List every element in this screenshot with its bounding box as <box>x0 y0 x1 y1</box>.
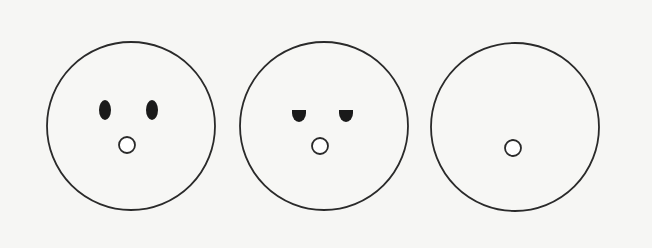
face-1 <box>47 42 215 210</box>
face-2 <box>240 42 408 210</box>
face-3-head-outline <box>431 43 599 211</box>
face-2-mouth-icon <box>312 138 328 154</box>
face-1-head-outline <box>47 42 215 210</box>
faces-figure <box>0 0 652 248</box>
face-3-mouth-icon <box>505 140 521 156</box>
figure-canvas: Face 1 Face 2 Face 3 <box>0 0 652 248</box>
face-1-right-eye-icon <box>146 100 158 120</box>
face-2-head-outline <box>240 42 408 210</box>
face-1-mouth-icon <box>119 137 135 153</box>
face-1-left-eye-icon <box>99 100 111 120</box>
face-3 <box>431 43 599 211</box>
